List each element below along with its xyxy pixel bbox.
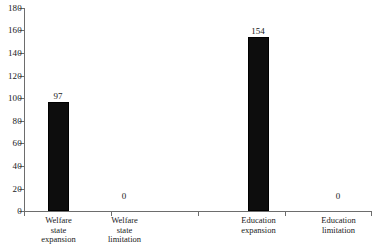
value-label-education-expansion: 154 <box>228 27 288 36</box>
y-tick-label-80: 80 <box>0 117 22 126</box>
y-axis-line <box>24 8 25 211</box>
value-label-welfare-state-expansion: 97 <box>28 92 88 101</box>
x-category-label-education-expansion: Education expansion <box>215 216 302 235</box>
y-tick-label-160: 160 <box>0 26 22 35</box>
y-tick-label-180: 180 <box>0 4 22 13</box>
value-label-education-limitation: 0 <box>308 192 368 201</box>
y-tick-label-100: 100 <box>0 94 22 103</box>
bar-education-expansion <box>248 37 269 211</box>
y-tick-label-140: 140 <box>0 49 22 58</box>
x-tick-2 <box>198 211 199 216</box>
y-tick-label-40: 40 <box>0 162 22 171</box>
y-tick-label-60: 60 <box>0 139 22 148</box>
x-category-line: expansion <box>215 226 302 236</box>
bar-welfare-state-expansion <box>48 102 69 211</box>
x-category-label-education-limitation: Education limitation <box>295 216 381 235</box>
x-category-line: limitation <box>81 235 168 245</box>
x-category-label-welfare-state-limitation: Welfare state limitation <box>81 216 168 245</box>
y-tick-label-120: 120 <box>0 72 22 81</box>
y-tick-label-20: 20 <box>0 185 22 194</box>
y-tick-label-0: 0 <box>0 207 22 216</box>
value-label-welfare-state-limitation: 0 <box>94 192 154 201</box>
x-category-line: limitation <box>295 226 381 236</box>
